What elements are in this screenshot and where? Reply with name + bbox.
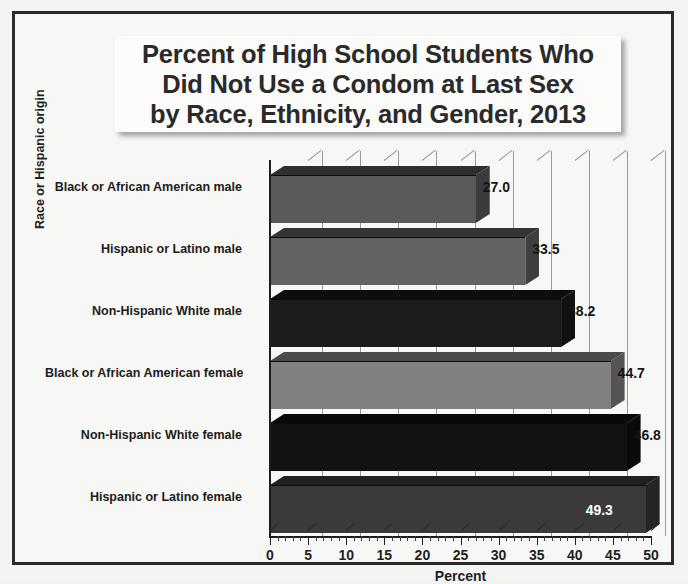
minor-tick-9	[339, 536, 340, 541]
minor-tick-16	[392, 536, 393, 541]
minor-tick-39	[567, 536, 568, 541]
minor-tick-13	[369, 536, 370, 541]
chart-title-line-2: Did Not Use a Condom at Last Sex	[162, 69, 574, 99]
minor-tick-34	[529, 536, 530, 541]
gridline-depth-25	[460, 150, 474, 161]
minor-tick-19	[415, 536, 416, 541]
minor-tick-44	[605, 536, 606, 541]
bar-top-face	[270, 228, 539, 237]
minor-tick-29	[491, 536, 492, 541]
major-tick-15	[384, 536, 385, 545]
major-tick-50	[651, 536, 652, 545]
gridline-depth-5	[308, 150, 322, 161]
minor-tick-49	[643, 536, 644, 541]
gridline-depth-45	[613, 150, 627, 161]
x-tick-label-0: 0	[266, 547, 274, 563]
bar-top-face	[270, 166, 490, 175]
x-tick-label-10: 10	[338, 547, 354, 563]
gridline-depth-15	[384, 150, 398, 161]
x-tick-label-15: 15	[377, 547, 393, 563]
bar-value-label: 33.5	[532, 241, 559, 257]
minor-tick-21	[430, 536, 431, 541]
minor-tick-8	[331, 536, 332, 541]
minor-tick-11	[354, 536, 355, 541]
bar[interactable]	[270, 361, 611, 409]
x-tick-label-35: 35	[529, 547, 545, 563]
minor-tick-31	[506, 536, 507, 541]
chart-title-box: Percent of High School Students Who Did …	[115, 36, 621, 132]
minor-tick-24	[453, 536, 454, 541]
bar-value-label: 44.7	[618, 365, 645, 381]
minor-tick-18	[407, 536, 408, 541]
minor-tick-41	[582, 536, 583, 541]
major-tick-40	[575, 536, 576, 545]
category-label: Hispanic or Latino female	[45, 490, 242, 504]
bar-value-label: 27.0	[483, 179, 510, 195]
minor-tick-2	[285, 536, 286, 541]
bar[interactable]	[270, 423, 627, 471]
bar-value-label: 38.2	[568, 303, 595, 319]
bar[interactable]	[270, 237, 525, 285]
chart-title-line-1: Percent of High School Students Who	[142, 39, 594, 69]
minor-tick-14	[377, 536, 378, 541]
major-tick-35	[537, 536, 538, 545]
y-axis-title: Race or Hispanic origin	[33, 89, 47, 229]
x-tick-label-45: 45	[605, 547, 621, 563]
major-tick-0	[270, 536, 271, 545]
minor-tick-32	[514, 536, 515, 541]
bar[interactable]	[270, 175, 476, 223]
major-tick-30	[499, 536, 500, 545]
bar-value-label: 49.3	[586, 502, 613, 518]
category-label: Hispanic or Latino male	[45, 242, 242, 256]
category-label: Black or African American female	[45, 366, 242, 380]
gridline-depth-30	[498, 150, 512, 161]
minor-tick-6	[316, 536, 317, 541]
x-tick-label-25: 25	[453, 547, 469, 563]
gridline-depth-50	[651, 150, 665, 161]
minor-tick-37	[552, 536, 553, 541]
bar-top-face	[270, 352, 625, 361]
page-border-frame: Percent of High School Students Who Did …	[12, 11, 674, 565]
y-axis-line	[269, 160, 271, 538]
bar[interactable]	[270, 299, 561, 347]
minor-tick-38	[560, 536, 561, 541]
major-tick-25	[461, 536, 462, 545]
minor-tick-36	[544, 536, 545, 541]
gridline-50	[665, 151, 666, 536]
bar-value-label: 46.8	[634, 427, 661, 443]
major-tick-10	[346, 536, 347, 545]
minor-tick-4	[300, 536, 301, 541]
major-tick-5	[308, 536, 309, 545]
minor-tick-22	[438, 536, 439, 541]
category-label: Black or African American male	[45, 180, 242, 194]
minor-tick-48	[636, 536, 637, 541]
bar-top-face	[270, 414, 641, 423]
minor-tick-42	[590, 536, 591, 541]
minor-tick-28	[483, 536, 484, 541]
bar-top-face	[270, 476, 660, 485]
minor-tick-27	[476, 536, 477, 541]
gridline-depth-35	[536, 150, 550, 161]
x-tick-label-40: 40	[567, 547, 583, 563]
x-axis-title: Percent	[270, 568, 651, 584]
minor-tick-46	[621, 536, 622, 541]
minor-tick-26	[468, 536, 469, 541]
major-tick-20	[422, 536, 423, 545]
category-label: Non-Hispanic White female	[45, 428, 242, 442]
minor-tick-1	[278, 536, 279, 541]
minor-tick-12	[361, 536, 362, 541]
minor-tick-47	[628, 536, 629, 541]
x-tick-label-20: 20	[415, 547, 431, 563]
plot-area: 05101520253035404550 Percent	[270, 164, 651, 536]
major-tick-45	[613, 536, 614, 545]
category-label: Non-Hispanic White male	[45, 304, 242, 318]
minor-tick-3	[293, 536, 294, 541]
chart-title-line-3: by Race, Ethnicity, and Gender, 2013	[150, 99, 586, 129]
x-tick-label-5: 5	[304, 547, 312, 563]
gridline-depth-40	[574, 150, 588, 161]
x-tick-label-30: 30	[491, 547, 507, 563]
x-tick-label-50: 50	[643, 547, 659, 563]
gridline-depth-20	[422, 150, 436, 161]
minor-tick-33	[521, 536, 522, 541]
